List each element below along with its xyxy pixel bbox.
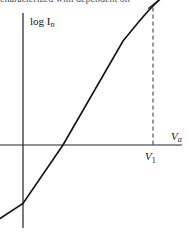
x-axis-label-subscript: a (178, 135, 182, 144)
y-axis-label-subscript: n (50, 20, 54, 29)
diagram: log In Va V1 (0, 0, 189, 233)
v1-label-subscript: 1 (152, 156, 156, 165)
x-axis-label: Va (171, 130, 182, 144)
v1-label: V1 (145, 150, 156, 165)
y-axis-label: log In (30, 15, 54, 29)
current-curve (0, 0, 189, 233)
knee-tick-mark (148, 1, 158, 9)
